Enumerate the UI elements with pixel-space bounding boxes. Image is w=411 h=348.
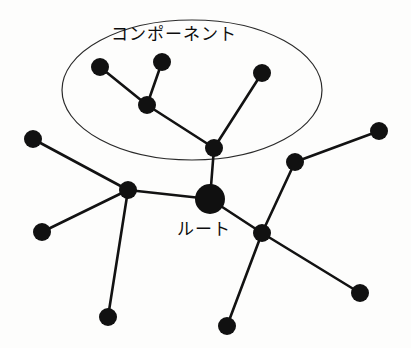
edge-n1-n3	[100, 67, 147, 105]
component-anchor	[205, 139, 223, 157]
edge-n6-n9	[108, 190, 128, 317]
root-node	[195, 184, 225, 214]
edge-n11-n12	[295, 131, 379, 162]
edge-n10-n11	[262, 162, 295, 233]
graph-canvas	[0, 0, 411, 348]
edge-n3-n5	[147, 105, 214, 148]
component-label: コンポーネント	[111, 26, 237, 43]
right-leaf-top	[370, 122, 388, 140]
root-label: ルート	[177, 221, 231, 238]
left-leaf-bottom	[99, 308, 117, 326]
component-branch	[138, 96, 156, 114]
left-leaf-lower	[33, 223, 51, 241]
component-leaf-upper-right	[253, 64, 271, 82]
component-leaf-upper-mid	[153, 53, 171, 71]
left-hub	[119, 181, 137, 199]
edge-n6-n7	[33, 139, 128, 190]
left-leaf-upper	[24, 130, 42, 148]
graph-figure: コンポーネント ルート	[0, 0, 411, 348]
right-upper-hub	[286, 153, 304, 171]
edge-n6-n8	[42, 190, 128, 232]
right-leaf-bottom	[351, 284, 369, 302]
component-leaf-upper-left	[91, 58, 109, 76]
edge-n10-n14	[227, 233, 262, 326]
right-hub	[253, 224, 271, 242]
edge-n4-n5	[214, 73, 262, 148]
bottom-leaf-center	[218, 317, 236, 335]
node-layer	[24, 53, 388, 335]
edge-n10-n13	[262, 233, 360, 293]
